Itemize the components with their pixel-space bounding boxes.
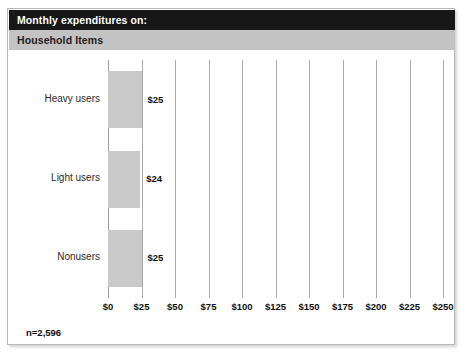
bar: [108, 71, 142, 128]
gridline-175: [343, 60, 344, 298]
x-axis-tick-label: $100: [231, 301, 252, 312]
bar-value-label: $25: [148, 94, 164, 105]
gridline-250: [443, 60, 444, 298]
x-axis-tick-label: $125: [265, 301, 286, 312]
plot-area: $25$24$25: [108, 60, 443, 298]
category-label: Nonusers: [57, 251, 100, 262]
gridline-75: [209, 60, 210, 298]
gridline-100: [242, 60, 243, 298]
category-label: Heavy users: [44, 93, 100, 104]
gridline-125: [276, 60, 277, 298]
chart-title-primary: Monthly expenditures on:: [9, 10, 455, 30]
x-axis-tick-label: $175: [332, 301, 353, 312]
x-axis-tick-label: $75: [201, 301, 217, 312]
chart-title-secondary: Household Items: [9, 30, 455, 50]
chart-card: Monthly expenditures on: Household Items…: [7, 8, 455, 345]
x-axis-tick-label: $150: [298, 301, 319, 312]
gridline-50: [175, 60, 176, 298]
gridline-25: [142, 60, 143, 298]
category-label-column: Heavy usersLight usersNonusers: [8, 60, 100, 298]
category-label: Light users: [51, 172, 100, 183]
x-axis-tick-label: $25: [134, 301, 150, 312]
gridline-225: [410, 60, 411, 298]
x-axis-tick-label: $50: [167, 301, 183, 312]
x-axis-tick-label: $250: [432, 301, 453, 312]
x-axis-tick-label: $200: [365, 301, 386, 312]
bar-value-label: $25: [148, 252, 164, 263]
gridline-200: [376, 60, 377, 298]
x-axis-tick-row: $0$25$50$75$100$125$150$175$200$225$250: [108, 301, 453, 317]
x-axis-tick-label: $0: [103, 301, 114, 312]
bar-value-label: $24: [146, 173, 162, 184]
bar: [108, 230, 142, 287]
bar: [108, 151, 140, 208]
gridline-150: [309, 60, 310, 298]
sample-size-footnote: n=2,596: [26, 327, 61, 338]
x-axis-tick-label: $225: [399, 301, 420, 312]
